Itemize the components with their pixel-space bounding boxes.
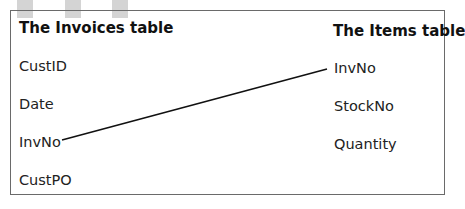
relationship-line [0, 0, 453, 209]
